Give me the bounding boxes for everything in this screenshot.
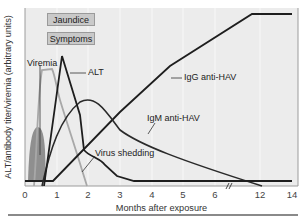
x-tick-4: 4	[149, 189, 154, 200]
plot-area	[0, 0, 306, 218]
y-axis-label-text: ALT/antibody titer/viremia (arbitrary un…	[3, 15, 13, 178]
igg-label: IgG anti-HAV	[184, 72, 236, 82]
y-axis-label: ALT/antibody titer/viremia (arbitrary un…	[1, 8, 15, 186]
alt-label: ALT	[88, 67, 104, 77]
x-tick-3: 3	[117, 189, 122, 200]
x-tick-12: 12	[255, 189, 266, 200]
x-tick-1: 1	[54, 189, 59, 200]
x-tick-0: 0	[22, 189, 27, 200]
viremia-label: Viremia	[27, 58, 57, 68]
bottom-divider	[8, 214, 298, 216]
x-tick-14: 14	[287, 189, 298, 200]
virus-shedding-label: Virus shedding	[95, 148, 154, 158]
x-tick-5: 5	[180, 189, 185, 200]
igm-label: IgM anti-HAV	[147, 113, 200, 123]
x-tick-6: 6	[212, 189, 217, 200]
hav-serology-chart: Jaundice Symptoms Viremia ALT IgG anti-H…	[0, 0, 306, 218]
jaundice-bar: Jaundice	[47, 13, 95, 26]
x-tick-2: 2	[85, 189, 90, 200]
x-axis-label: Months after exposure	[25, 203, 298, 213]
symptoms-bar: Symptoms	[47, 32, 95, 45]
